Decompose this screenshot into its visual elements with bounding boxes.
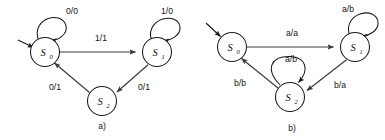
state-label-b-s2: S bbox=[285, 92, 291, 103]
edge-label-b-s2-s0: b/b bbox=[234, 78, 246, 88]
panel-caption-a: a) bbox=[98, 121, 106, 131]
state-label-b-s1: S bbox=[350, 42, 356, 53]
state-subscript-b-s1: 1 bbox=[360, 48, 363, 55]
edge-label-a-s0-s1: 1/1 bbox=[95, 33, 107, 43]
state-label-a-s2: S bbox=[97, 96, 103, 107]
panel-a: S 0 S 1 S 2 0/0 1/0 1/1 0/1 0/1 a) bbox=[18, 6, 180, 131]
loop-label-b-s1: a/b bbox=[342, 4, 354, 14]
start-arrow-b-s0 bbox=[206, 23, 221, 37]
state-label-b-s0: S bbox=[227, 42, 233, 53]
edge-label-b-s0-s1: a/a bbox=[286, 28, 298, 38]
edge-label-b-s1-s2: b/a bbox=[334, 80, 346, 90]
panel-caption-b: b) bbox=[288, 123, 296, 133]
state-machine-figure: S 0 S 1 S 2 0/0 1/0 1/1 0/1 0/1 a) bbox=[0, 0, 385, 140]
loop-label-a-s0: 0/0 bbox=[66, 6, 78, 16]
loop-label-a-s1: 1/0 bbox=[161, 6, 173, 16]
edge-label-a-s2-s0: 0/1 bbox=[49, 82, 61, 92]
state-subscript-a-s1: 1 bbox=[162, 53, 165, 60]
self-loop-a-s0 bbox=[37, 18, 66, 41]
edge-label-a-s1-s2: 0/1 bbox=[138, 82, 150, 92]
panel-b: S 0 S 1 S 2 a/b a/b a/a b/a b/b b) bbox=[206, 4, 378, 133]
diagram-canvas: S 0 S 1 S 2 0/0 1/0 1/1 0/1 0/1 a) bbox=[0, 0, 385, 140]
state-label-a-s0: S bbox=[40, 47, 46, 58]
state-label-a-s1: S bbox=[152, 47, 158, 58]
loop-label-b-s2: a/b bbox=[285, 54, 297, 64]
